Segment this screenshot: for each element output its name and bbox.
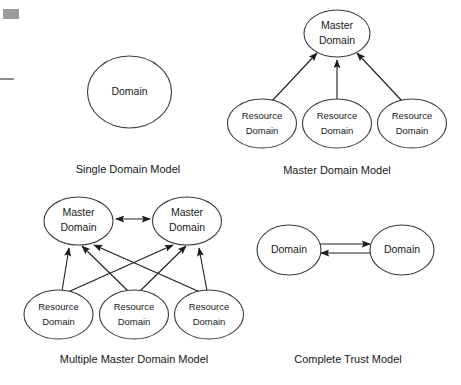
caption-complete-trust-model: Complete Trust Model [294,353,402,365]
node-mm-resource-domain-2-label-line1: Resource [114,301,155,312]
caption-multiple-master-domain-model: Multiple Master Domain Model [60,353,209,365]
diagram-single-domain-model: Domain Single Domain Model [76,56,181,175]
domain-trust-models-diagram: Domain Single Domain Model Master Domain… [0,0,461,385]
node-md-master-domain-label-line2: Domain [319,34,355,46]
node-mm-resource-domain-3[interactable] [175,290,244,339]
node-md-resource-domain-1[interactable] [228,99,297,148]
diagram-complete-trust-model: Domain Domain Complete Trust Model [257,225,434,365]
edge-md-res1-to-master [272,53,317,101]
node-md-resource-domain-1-label-line1: Resource [242,110,283,121]
node-mm-resource-domain-3-label-line2: Domain [193,316,226,327]
node-mm-resource-domain-3-label-line1: Resource [189,301,230,312]
diagram-multiple-master-domain-model: Master Domain Master Domain Resource Dom… [24,197,244,365]
node-md-master-domain-label-line1: Master [321,19,354,31]
node-mm-master-domain-right-label-line1: Master [171,206,204,218]
node-mm-master-domain-left-label-line1: Master [62,206,95,218]
node-mm-resource-domain-2-label-line2: Domain [118,316,151,327]
node-mm-master-domain-right-label-line2: Domain [169,221,205,233]
edge-mm-res1-to-master-right [68,245,173,292]
diagram-canvas: Domain Single Domain Model Master Domain… [0,0,461,385]
node-mm-resource-domain-1[interactable] [24,290,93,339]
node-md-resource-domain-3-label-line1: Resource [392,110,433,121]
edge-mm-res1-to-master-left [62,248,69,291]
caption-single-domain-model: Single Domain Model [76,163,181,175]
node-mm-resource-domain-1-label-line1: Resource [38,301,79,312]
node-md-resource-domain-1-label-line2: Domain [246,125,279,136]
node-md-resource-domain-3-label-line2: Domain [396,125,429,136]
node-single-domain-label: Domain [111,85,147,97]
edge-mm-res3-to-master-right [199,248,207,291]
node-md-resource-domain-2[interactable] [303,99,372,148]
caption-master-domain-model: Master Domain Model [283,164,391,176]
edge-mm-res3-to-master-left [94,245,200,292]
node-ct-domain-right-label: Domain [384,243,420,255]
node-md-resource-domain-3[interactable] [378,99,447,148]
node-md-resource-domain-2-label-line2: Domain [321,125,354,136]
node-mm-resource-domain-2[interactable] [100,290,169,339]
node-md-resource-domain-2-label-line1: Resource [317,110,358,121]
node-mm-resource-domain-1-label-line2: Domain [42,316,75,327]
scan-artifact-block-icon [3,9,19,19]
edge-md-res3-to-master [357,53,402,101]
node-mm-master-domain-left-label-line2: Domain [60,221,96,233]
node-ct-domain-left-label: Domain [271,243,307,255]
diagram-master-domain-model: Master Domain Resource Domain Resource D… [228,10,447,176]
